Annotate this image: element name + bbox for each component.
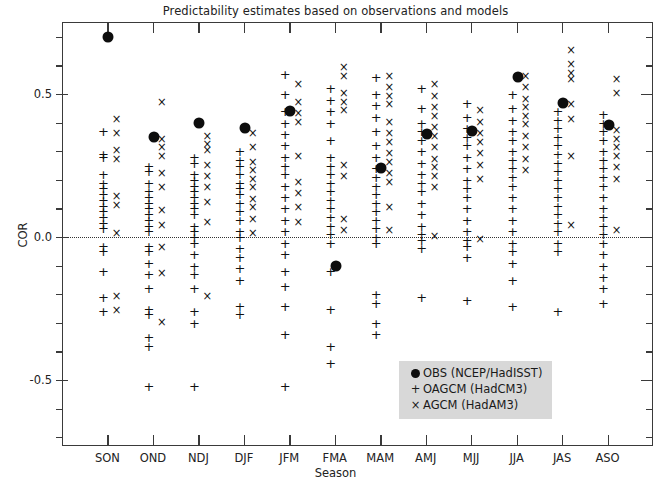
data-point-obs	[603, 120, 614, 131]
data-point-obs	[330, 260, 341, 271]
data-point-agcm: ×	[157, 168, 167, 180]
data-point-oagcm: +	[98, 291, 109, 304]
data-point-oagcm: +	[189, 379, 200, 392]
data-point-oagcm: +	[416, 102, 427, 115]
y-axis-minor-tick-right	[646, 437, 653, 438]
data-point-agcm: ×	[112, 128, 122, 140]
data-point-agcm: ×	[203, 217, 213, 229]
data-point-agcm: ×	[339, 226, 349, 238]
data-point-obs	[103, 31, 114, 42]
data-point-agcm: ×	[475, 160, 485, 172]
y-axis-minor-tick-right	[646, 294, 653, 295]
data-point-agcm: ×	[112, 306, 122, 318]
data-point-agcm: ×	[384, 203, 394, 215]
y-axis-major-tick	[56, 380, 68, 381]
data-point-agcm: ×	[112, 114, 122, 126]
data-point-agcm: ×	[430, 231, 440, 243]
data-point-oagcm: +	[98, 125, 109, 138]
x-cross-icon: ×	[408, 398, 423, 414]
x-axis-tick-label: ASO	[578, 451, 638, 465]
x-axis-major-tick-top	[426, 22, 427, 33]
y-axis-minor-tick-right	[646, 151, 653, 152]
data-point-agcm: ×	[157, 97, 167, 109]
data-point-oagcm: +	[143, 379, 154, 392]
x-axis-major-tick	[107, 435, 108, 446]
data-point-obs	[239, 123, 250, 134]
data-point-agcm: ×	[566, 74, 576, 86]
data-point-obs	[512, 71, 523, 82]
data-point-oagcm: +	[462, 293, 473, 306]
data-point-oagcm: +	[143, 308, 154, 321]
data-point-agcm: ×	[112, 200, 122, 212]
data-point-oagcm: +	[234, 273, 245, 286]
y-axis-minor-tick	[56, 409, 63, 410]
data-point-oagcm: +	[325, 302, 336, 315]
y-axis-minor-tick-right	[646, 123, 653, 124]
y-axis-tick-label: -0.5	[0, 373, 52, 387]
data-point-agcm: ×	[203, 145, 213, 157]
data-point-obs	[558, 97, 569, 108]
y-axis-minor-tick	[56, 323, 63, 324]
data-point-oagcm: +	[280, 328, 291, 341]
legend-label-agcm: AGCM (HadAM3)	[423, 398, 518, 412]
data-point-oagcm: +	[553, 245, 564, 258]
y-axis-minor-tick-right	[646, 409, 653, 410]
data-point-agcm: ×	[566, 151, 576, 163]
data-point-oagcm: +	[462, 251, 473, 264]
data-point-oagcm: +	[280, 279, 291, 292]
data-point-agcm: ×	[612, 74, 622, 86]
data-point-oagcm: +	[598, 282, 609, 295]
data-point-agcm: ×	[566, 45, 576, 57]
data-point-agcm: ×	[112, 291, 122, 303]
data-point-oagcm: +	[507, 273, 518, 286]
data-point-agcm: ×	[157, 220, 167, 232]
data-point-agcm: ×	[203, 197, 213, 209]
y-axis-minor-tick	[56, 208, 63, 209]
data-point-agcm: ×	[293, 188, 303, 200]
data-point-agcm: ×	[339, 171, 349, 183]
data-point-agcm: ×	[430, 183, 440, 195]
data-point-oagcm: +	[189, 282, 200, 295]
x-axis-major-tick-top	[289, 22, 290, 33]
data-point-oagcm: +	[371, 328, 382, 341]
chart-title: Predictability estimates based on observ…	[0, 4, 671, 18]
data-point-oagcm: +	[280, 67, 291, 80]
data-point-agcm: ×	[384, 100, 394, 112]
data-point-agcm: ×	[112, 228, 122, 240]
data-point-oagcm: +	[371, 125, 382, 138]
data-point-oagcm: +	[371, 296, 382, 309]
x-axis-major-tick-top	[198, 22, 199, 33]
y-axis-tick-label: 0.5	[0, 87, 52, 101]
x-axis-major-tick-top	[380, 22, 381, 33]
y-axis-major-tick-right	[641, 380, 653, 381]
data-point-agcm: ×	[475, 174, 485, 186]
y-axis-minor-tick	[56, 180, 63, 181]
y-axis-minor-tick	[56, 151, 63, 152]
data-point-agcm: ×	[293, 203, 303, 215]
filled-circle-icon	[408, 366, 423, 382]
x-axis-major-tick	[608, 435, 609, 446]
data-point-oagcm: +	[325, 116, 336, 129]
x-axis-major-tick	[517, 435, 518, 446]
y-axis-minor-tick-right	[646, 323, 653, 324]
data-point-agcm: ×	[475, 234, 485, 246]
data-point-agcm: ×	[384, 177, 394, 189]
data-point-agcm: ×	[157, 206, 167, 218]
data-point-agcm: ×	[612, 226, 622, 238]
data-point-obs	[148, 131, 159, 142]
y-axis-minor-tick-right	[646, 266, 653, 267]
data-point-oagcm: +	[416, 242, 427, 255]
data-point-oagcm: +	[416, 291, 427, 304]
data-point-oagcm: +	[280, 299, 291, 312]
data-point-oagcm: +	[325, 236, 336, 249]
data-point-oagcm: +	[98, 150, 109, 163]
data-point-oagcm: +	[234, 308, 245, 321]
data-point-obs	[421, 129, 432, 140]
data-point-oagcm: +	[98, 222, 109, 235]
data-point-oagcm: +	[189, 316, 200, 329]
y-axis-minor-tick-right	[646, 180, 653, 181]
data-point-oagcm: +	[98, 265, 109, 278]
data-point-obs	[285, 106, 296, 117]
data-point-oagcm: +	[143, 225, 154, 238]
y-axis-minor-tick	[56, 123, 63, 124]
